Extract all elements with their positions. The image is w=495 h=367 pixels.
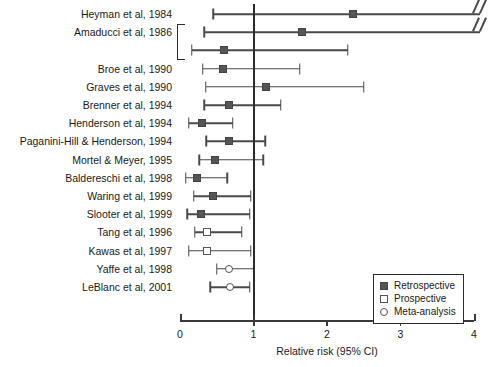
ci-cap-high	[226, 172, 228, 183]
point-estimate-marker	[220, 46, 228, 54]
study-label: LeBlanc et al, 2001	[82, 282, 172, 293]
study-label: Graves et al, 1990	[86, 82, 172, 93]
ci-cap-low	[198, 154, 200, 165]
study-label: Henderson et al, 1994	[69, 118, 172, 129]
confidence-interval-line	[204, 104, 280, 106]
x-axis-tick-label: 3	[398, 329, 404, 340]
ci-cap-low	[194, 227, 196, 238]
ci-cap-low	[216, 263, 218, 274]
study-label: Brenner et al, 1994	[83, 100, 172, 111]
study-label: Yaffe et al, 1998	[96, 264, 172, 275]
confidence-interval-line	[203, 68, 300, 70]
x-axis-tick-label: 1	[251, 329, 257, 340]
ci-cap-high	[249, 282, 251, 293]
point-estimate-marker	[197, 210, 205, 218]
ci-cap-high	[249, 209, 251, 220]
study-label: Tang et al, 1996	[97, 227, 172, 238]
point-estimate-marker	[198, 119, 206, 127]
ci-cap-low	[206, 136, 208, 147]
ci-cap-low	[187, 209, 189, 220]
study-label: Slooter et al, 1999	[87, 209, 172, 220]
study-label: Broe et al, 1990	[98, 63, 172, 74]
ci-cap-low	[204, 100, 206, 111]
ci-cap-high	[250, 245, 252, 256]
point-estimate-marker	[203, 247, 211, 255]
ci-cap-high	[265, 136, 267, 147]
x-axis-tick	[326, 320, 328, 326]
legend: RetrospectiveProspectiveMeta-analysis	[373, 274, 464, 324]
point-estimate-marker	[349, 10, 357, 18]
confidence-interval-line	[194, 195, 251, 197]
x-axis-tick-reference	[253, 315, 255, 326]
point-estimate-marker	[225, 265, 233, 273]
confidence-interval-line	[206, 141, 265, 143]
x-axis-tick-label: 2	[324, 329, 330, 340]
open-square-icon	[380, 295, 388, 303]
open-circle-icon	[380, 308, 388, 316]
ci-cap-low	[212, 9, 214, 20]
ci-cap-low	[205, 81, 207, 92]
ci-cap-high	[363, 81, 365, 92]
confidence-interval-line	[192, 50, 348, 52]
confidence-interval-line	[206, 86, 364, 88]
ci-cap-low	[204, 27, 206, 38]
legend-item-label: Meta-analysis	[394, 307, 456, 317]
ci-cap-low	[191, 45, 193, 56]
confidence-interval-line	[204, 31, 480, 33]
ci-cap-high	[262, 154, 264, 165]
x-axis-tick	[474, 314, 476, 321]
ci-cap-low	[202, 63, 204, 74]
study-label: Kawas et al, 1997	[89, 245, 172, 256]
legend-item-retrospective: Retrospective	[380, 280, 456, 292]
ci-cap-high	[250, 191, 252, 202]
filled-square-icon	[380, 282, 388, 290]
ci-cap-low	[188, 245, 190, 256]
study-label: Waring et al, 1999	[87, 191, 172, 202]
ci-cap-low	[209, 282, 211, 293]
point-estimate-marker	[298, 28, 306, 36]
legend-item-prospective: Prospective	[380, 293, 456, 305]
ci-cap-low	[188, 118, 190, 129]
point-estimate-marker	[193, 174, 201, 182]
x-axis-tick	[180, 314, 182, 321]
point-estimate-marker	[219, 65, 227, 73]
axis-break-icon	[473, 24, 491, 40]
confidence-interval-line	[217, 268, 254, 270]
ci-cap-high	[232, 118, 234, 129]
point-estimate-marker	[262, 83, 270, 91]
confidence-interval-line	[189, 122, 233, 124]
study-label: Paganini-Hill & Henderson, 1994	[20, 136, 172, 147]
ci-cap-low	[185, 172, 187, 183]
confidence-interval-line	[189, 250, 251, 252]
legend-item-label: Retrospective	[394, 281, 455, 291]
x-axis-tick-label: 4	[471, 329, 477, 340]
point-estimate-marker	[225, 137, 233, 145]
point-estimate-marker	[226, 283, 234, 291]
point-estimate-marker	[211, 156, 219, 164]
ci-cap-low	[193, 191, 195, 202]
legend-item-meta: Meta-analysis	[380, 306, 456, 318]
reference-line	[253, 4, 255, 320]
confidence-interval-line	[195, 232, 242, 234]
legend-item-label: Prospective	[394, 294, 446, 304]
study-label: Heyman et al, 1984	[81, 9, 172, 20]
point-estimate-marker	[225, 101, 233, 109]
x-axis-title: Relative risk (95% CI)	[276, 346, 378, 357]
study-label: Baldereschi et al, 1998	[65, 173, 172, 184]
point-estimate-marker	[203, 228, 211, 236]
x-axis-tick-label: 0	[177, 329, 183, 340]
point-estimate-marker	[209, 192, 217, 200]
ci-cap-high	[347, 45, 349, 56]
ci-cap-high	[241, 227, 243, 238]
study-group-bracket	[177, 24, 185, 60]
forest-plot: Heyman et al, 1984Amaducci et al, 1986Br…	[0, 0, 495, 367]
ci-cap-high	[280, 100, 282, 111]
ci-cap-high	[299, 63, 301, 74]
study-label: Mortel & Meyer, 1995	[72, 154, 172, 165]
study-label: Amaducci et al, 1986	[74, 27, 172, 38]
